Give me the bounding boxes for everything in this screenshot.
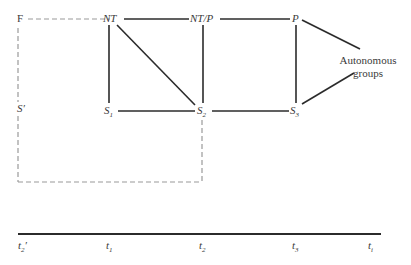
autonomous-line2: groups <box>338 67 398 80</box>
node-s-prime: S′ <box>17 103 25 114</box>
node-nt: NT <box>103 13 116 24</box>
node-s1: S1 <box>104 105 113 119</box>
diagram-canvas <box>0 0 411 265</box>
timeline-tick-t2-prime: t2′ <box>18 240 27 254</box>
timeline-tick-t1: t1 <box>106 240 113 254</box>
node-s3: S3 <box>290 105 299 119</box>
node-p: P <box>292 13 299 24</box>
node-autonomous-groups: Autonomous groups <box>338 54 398 80</box>
edge-nt-s2 <box>117 25 195 105</box>
edge-p-autonomous <box>302 20 360 49</box>
node-f: F <box>17 13 23 24</box>
solid-edges <box>109 19 360 111</box>
autonomous-line1: Autonomous <box>338 54 398 67</box>
node-nt-p: NT/P <box>190 13 213 24</box>
timeline-tick-ti: ti <box>368 240 373 254</box>
node-s2: S2 <box>197 105 206 119</box>
timeline-tick-t3: t3 <box>292 240 299 254</box>
timeline-tick-t2: t2 <box>199 240 206 254</box>
dashed-region <box>18 19 202 182</box>
